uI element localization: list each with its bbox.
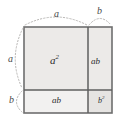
dim-arc-left-b bbox=[17, 91, 23, 112]
dim-arc-left-a bbox=[15, 28, 23, 88]
dimension-label-left-b: b bbox=[9, 95, 14, 105]
label-ab-bottom: ab bbox=[52, 96, 61, 105]
dimension-label-top-a: a bbox=[54, 9, 59, 19]
binomial-square-diagram: a2 ab ab b2 a b a b bbox=[0, 0, 117, 124]
label-a-squared: a2 bbox=[50, 55, 59, 66]
dimension-label-top-b: b bbox=[97, 6, 102, 16]
dim-arc-top-b bbox=[89, 19, 111, 26]
label-ab-right: ab bbox=[91, 57, 100, 66]
label-b-squared: b2 bbox=[98, 97, 104, 105]
dimension-label-left-a: a bbox=[8, 54, 13, 64]
